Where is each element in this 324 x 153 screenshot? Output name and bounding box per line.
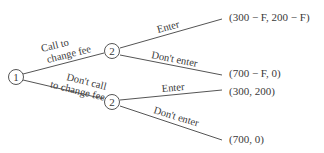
label-top-enter: Enter <box>156 18 181 35</box>
node-player-1: 1 <box>9 70 24 85</box>
payoff-nocall-dont-enter: (700, 0) <box>229 133 264 146</box>
label-bottom-enter: Enter <box>161 81 185 94</box>
label-call-to-change-fee: Call to change fee <box>40 32 93 66</box>
node-player-2-bottom: 2 <box>105 95 120 110</box>
payoff-call-dont-enter: (700 − F, 0) <box>229 67 281 80</box>
node-label: 2 <box>109 45 115 57</box>
payoff-call-enter: (300 − F, 200 − F) <box>229 11 310 24</box>
node-label: 1 <box>13 71 19 83</box>
game-tree-svg: 1 2 2 Call to change fee Don't call to c… <box>0 0 324 153</box>
game-tree-diagram: 1 2 2 Call to change fee Don't call to c… <box>0 0 324 153</box>
node-label: 2 <box>109 96 115 108</box>
node-player-2-top: 2 <box>105 44 120 59</box>
label-dont-call-to-change-fee: Don't call to change fee <box>49 68 109 103</box>
payoff-nocall-enter: (300, 200) <box>229 85 275 98</box>
